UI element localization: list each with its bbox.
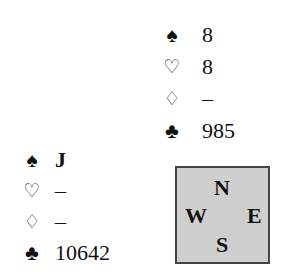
heart-icon: ♡ (162, 54, 182, 80)
compass-box: N W E S (175, 166, 270, 264)
compass-south: S (216, 234, 228, 256)
west-hearts-cards: – (55, 178, 66, 204)
compass-north: N (214, 177, 230, 199)
club-icon: ♣ (22, 240, 42, 266)
spade-icon: ♠ (162, 22, 182, 48)
heart-icon: ♡ (22, 178, 42, 204)
west-spades-cards: J (55, 147, 66, 173)
compass-west: W (185, 205, 207, 227)
west-diamonds-cards: – (55, 209, 66, 235)
north-spades-cards: 8 (202, 22, 213, 48)
club-icon: ♣ (162, 118, 182, 144)
north-diamonds-cards: – (202, 86, 213, 112)
diamond-icon: ♢ (22, 209, 42, 235)
north-clubs-cards: 985 (202, 118, 235, 144)
west-clubs-cards: 10642 (55, 240, 110, 266)
north-hearts-cards: 8 (202, 54, 213, 80)
spade-icon: ♠ (22, 147, 42, 173)
compass-east: E (247, 205, 262, 227)
diamond-icon: ♢ (162, 86, 182, 112)
